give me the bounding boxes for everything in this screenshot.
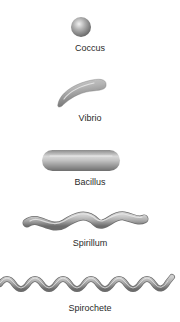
vibrio-shape [58,79,106,107]
spirillum-label: Spirillum [0,238,180,248]
coccus-shape [71,17,91,37]
spirochete-label: Spirochete [0,303,180,313]
bacteria-shapes-diagram: Coccus Vibrio Bacillus Spirillum Spiroch… [0,0,180,322]
coccus-label: Coccus [0,43,180,53]
spirillum-shape [27,214,144,226]
vibrio-label: Vibrio [0,113,180,123]
bacillus-label: Bacillus [0,177,180,187]
bacillus-shape [42,150,120,171]
spirochete-shape [0,277,172,289]
